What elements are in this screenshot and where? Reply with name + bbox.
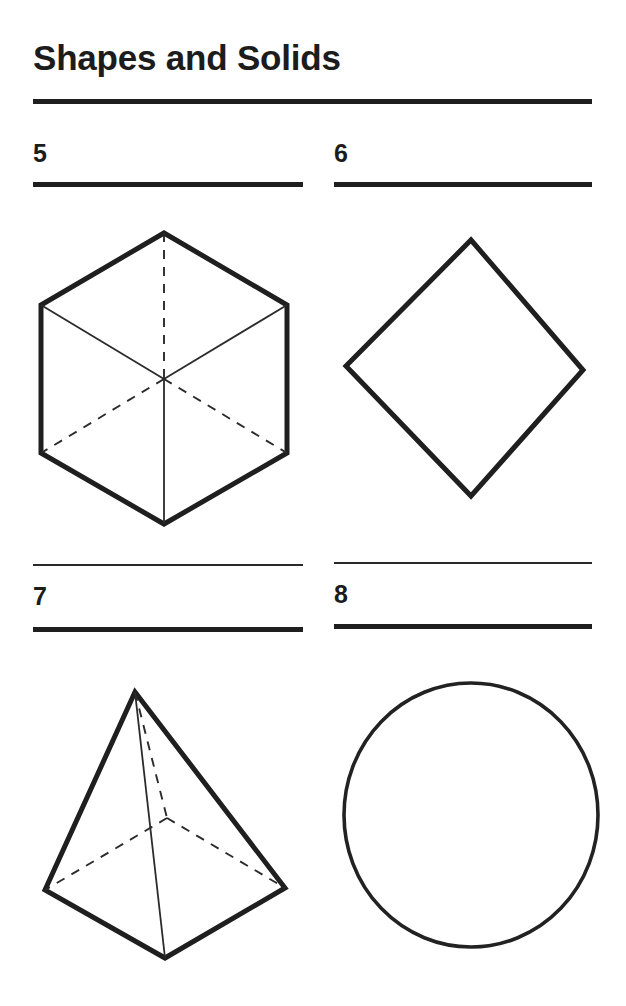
page-title: Shapes and Solids bbox=[33, 38, 341, 78]
item-number-7: 7 bbox=[33, 584, 47, 609]
cube-edge-upper-right bbox=[164, 305, 287, 379]
circle-outline bbox=[344, 683, 598, 947]
item-rule-5 bbox=[33, 182, 303, 187]
square-pyramid-wireframe-icon bbox=[20, 660, 310, 990]
worksheet-page: Shapes and Solids 5 6 7 8 bbox=[0, 0, 626, 1006]
item-rule-6 bbox=[334, 182, 592, 187]
item-number-8: 8 bbox=[334, 582, 348, 607]
cube-hidden-edge-lower-left bbox=[41, 379, 164, 453]
cube-wireframe-icon bbox=[20, 215, 310, 540]
pyramid-hidden-edge-back-to-right bbox=[167, 818, 285, 888]
diamond-outline bbox=[346, 240, 583, 496]
cube-hidden-edge-lower-right bbox=[164, 379, 287, 453]
figure-diamond bbox=[325, 215, 615, 540]
figure-cube bbox=[20, 215, 310, 540]
item-number-5: 5 bbox=[33, 141, 47, 166]
title-rule bbox=[33, 99, 592, 104]
circle-outline-icon bbox=[325, 660, 615, 990]
pyramid-outline bbox=[45, 692, 285, 958]
item-rule-7-top bbox=[33, 564, 303, 566]
item-rule-8 bbox=[334, 624, 592, 629]
figure-pyramid bbox=[20, 660, 310, 990]
pyramid-edge-front bbox=[135, 692, 165, 958]
square-diamond-icon bbox=[325, 215, 615, 540]
cube-edge-upper-left bbox=[41, 305, 164, 379]
item-rule-8-top bbox=[334, 562, 592, 564]
item-number-6: 6 bbox=[334, 141, 348, 166]
item-rule-7 bbox=[33, 627, 303, 632]
figure-circle bbox=[325, 660, 615, 990]
